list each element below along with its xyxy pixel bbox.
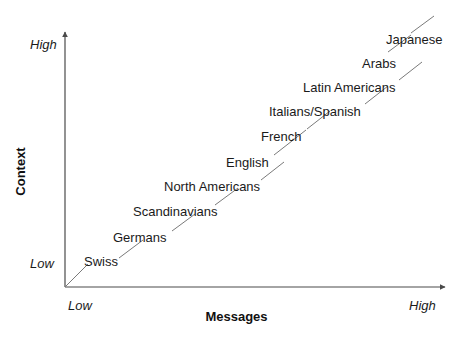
- trend-segment-11: [411, 16, 434, 33]
- data-label-north-americans: North Americans: [164, 180, 260, 193]
- y-axis-tick-high: High: [30, 38, 57, 51]
- data-label-japanese: Japanese: [386, 33, 442, 46]
- x-axis-title: Messages: [0, 310, 473, 323]
- data-label-germans: Germans: [113, 231, 166, 244]
- data-label-arabs: Arabs: [362, 57, 396, 70]
- y-axis-title: Context: [14, 132, 27, 212]
- trend-segment-9: [399, 62, 422, 80]
- data-label-italians-spanish: Italians/Spanish: [269, 105, 361, 118]
- data-label-swiss: Swiss: [84, 255, 118, 268]
- data-label-french: French: [261, 130, 301, 143]
- y-axis-tick-low: Low: [30, 257, 54, 270]
- context-messages-chart: High Low Low High Messages Context Swiss…: [0, 0, 473, 343]
- data-label-scandinavians: Scandinavians: [133, 205, 218, 218]
- data-label-latin-americans: Latin Americans: [303, 81, 396, 94]
- data-label-english: English: [226, 156, 269, 169]
- chart-plot-area: [0, 0, 473, 343]
